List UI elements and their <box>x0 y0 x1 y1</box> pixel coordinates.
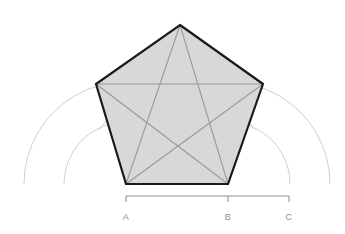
labels-group: A B C <box>123 212 293 222</box>
pentagon-shape <box>96 25 263 184</box>
pentagon-construction-diagram: A B C <box>0 0 345 234</box>
label-a: A <box>123 212 129 222</box>
dimension-bar <box>126 196 289 202</box>
label-b: B <box>225 212 231 222</box>
figure-canvas: A B C <box>0 0 345 234</box>
label-c: C <box>286 212 293 222</box>
